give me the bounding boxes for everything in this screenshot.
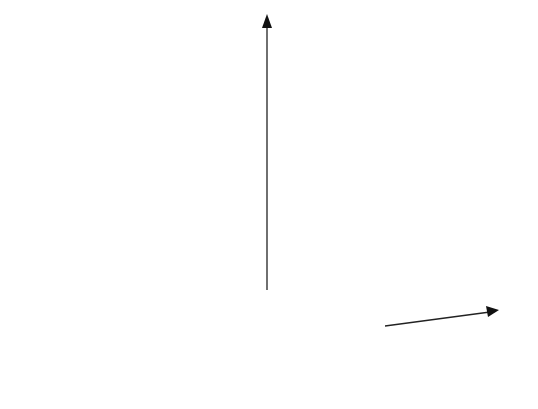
surface-plot bbox=[0, 0, 538, 409]
z-axis-arrowhead-icon bbox=[262, 14, 272, 28]
x-axis-arrowhead-icon bbox=[486, 306, 499, 317]
axes bbox=[262, 14, 499, 326]
x-axis bbox=[385, 312, 490, 326]
